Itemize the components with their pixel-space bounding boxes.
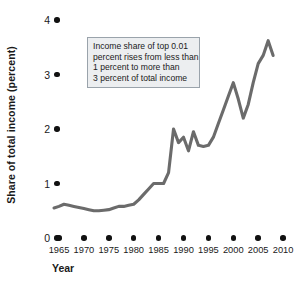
- annotation-line: percent rises from less than: [93, 52, 195, 63]
- x-axis-title: Year: [52, 262, 74, 274]
- annotation-line: 1 percent to more than: [93, 62, 195, 73]
- chart-container: Share of total income (percent) 01234 19…: [0, 0, 304, 284]
- annotation-callout: Income share of top 0.01 percent rises f…: [87, 37, 200, 88]
- annotation-line: Income share of top 0.01: [93, 41, 195, 52]
- annotation-line: 3 percent of total income: [93, 73, 195, 84]
